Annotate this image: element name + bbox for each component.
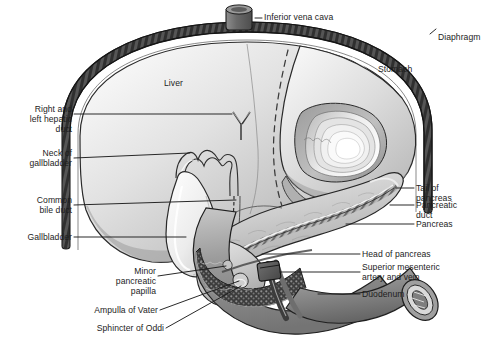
label-head-of-pancreas: Head of pancreas — [362, 249, 431, 259]
label-superior-mesenteric-artery-and-vein: Superior mesenteric artery and vein — [362, 262, 440, 282]
label-minor-pancreatic-papilla: Minor pancreatic papilla — [74, 266, 156, 296]
label-sphincter-of-oddi: Sphincter of Oddi — [62, 323, 164, 333]
label-liver: Liver — [164, 78, 183, 88]
label-pancreatic-duct: Pancreatic duct — [416, 200, 457, 220]
label-pancreas: Pancreas — [416, 219, 453, 229]
label-common-bile-duct: Common bile duct — [0, 195, 72, 215]
anatomy-figure: Inferior vena cava Diaphragm Stomach Liv… — [0, 0, 494, 339]
label-inferior-vena-cava: Inferior vena cava — [264, 12, 333, 22]
label-stomach: Stomach — [378, 64, 412, 74]
inferior-vena-cava — [226, 5, 252, 30]
label-diaphragm: Diaphragm — [438, 32, 480, 42]
label-duodenum: Duodenum — [362, 289, 404, 299]
label-right-and-left-hepatic-duct: Right and left hepatic duct — [0, 104, 72, 134]
label-gallbladder: Gallbladder — [0, 232, 72, 242]
label-neck-of-gallbladder: Neck of gallbladder — [0, 148, 72, 168]
label-ampulla-of-vater: Ampulla of Vater — [62, 305, 158, 315]
